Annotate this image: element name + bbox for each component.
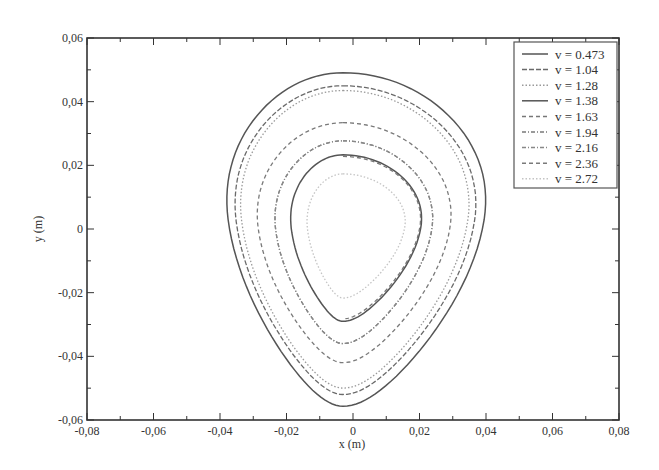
curve-1.63 — [343, 156, 421, 318]
curve-2.16 — [275, 141, 433, 344]
curve-1.94 — [275, 141, 433, 344]
y-tick-label: 0,06 — [62, 31, 83, 45]
legend-label: v = 2.16 — [555, 140, 599, 155]
curves-layer — [227, 73, 486, 407]
legend-label: v = 0.473 — [555, 47, 605, 62]
legend-label: v = 1.38 — [555, 93, 598, 108]
legend-label: v = 1.94 — [555, 125, 599, 140]
x-tick-label: 0,06 — [542, 424, 563, 438]
x-tick-label: 0,04 — [476, 424, 497, 438]
y-tick-label: 0,04 — [62, 95, 83, 109]
legend: v = 0.473v = 1.04v = 1.28v = 1.38v = 1.6… — [514, 42, 617, 188]
y-tick-label: -0,02 — [58, 286, 83, 300]
chart-canvas: -0,08-0,06-0,04-0,0200,020,040,060,08 0,… — [0, 0, 659, 470]
x-tick-label: -0,02 — [274, 424, 299, 438]
legend-label: v = 1.04 — [555, 62, 599, 77]
y-tick-label: -0,04 — [58, 349, 83, 363]
x-tick-label: 0,08 — [609, 424, 630, 438]
legend-label: v = 1.63 — [555, 109, 598, 124]
y-tick-label: 0 — [77, 222, 83, 236]
y-axis-label: y (m) — [31, 216, 45, 242]
legend-label: v = 2.72 — [555, 171, 598, 186]
x-tick-label: -0,06 — [141, 424, 166, 438]
y-tick-label: 0,02 — [62, 158, 83, 172]
x-axis-label: x (m) — [339, 437, 365, 451]
legend-label: v = 1.28 — [555, 78, 598, 93]
curve-2.36 — [257, 123, 451, 363]
x-tick-label: -0,04 — [208, 424, 233, 438]
x-tick-label: 0 — [350, 424, 356, 438]
curve-2.72 — [307, 174, 405, 298]
legend-label: v = 2.36 — [555, 156, 599, 171]
x-tick-label: 0,02 — [409, 424, 430, 438]
curve-1.04 — [235, 86, 476, 395]
curve-1.28 — [241, 91, 469, 389]
y-tick-label: -0,06 — [58, 413, 83, 427]
